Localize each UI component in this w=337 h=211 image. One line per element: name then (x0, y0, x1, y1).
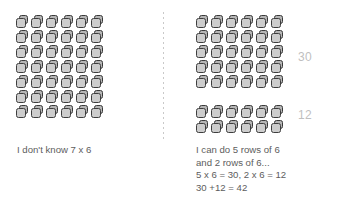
cube-icon (271, 15, 286, 30)
cube-icon (271, 30, 286, 45)
cube-icon (196, 105, 211, 120)
cube-icon (271, 45, 286, 60)
right-caption-line: 30 +12 = 42 (196, 182, 336, 195)
cube-icon (256, 105, 271, 120)
cube-icon (196, 45, 211, 60)
cube-icon (196, 75, 211, 90)
cube-icon (196, 15, 211, 30)
cube-icon (256, 60, 271, 75)
cube-icon (31, 30, 46, 45)
right-cube-grid-bottom (196, 105, 286, 135)
cube-icon (61, 105, 76, 120)
cube-icon (271, 60, 286, 75)
cube-icon (76, 90, 91, 105)
group-label-top: 30 (298, 50, 312, 64)
left-caption: I don't know 7 x 6 (17, 144, 162, 157)
right-caption-line: I can do 5 rows of 6 (196, 144, 336, 157)
cube-icon (46, 90, 61, 105)
cube-icon (16, 30, 31, 45)
cube-icon (91, 15, 106, 30)
cube-icon (211, 30, 226, 45)
cube-icon (226, 120, 241, 135)
cube-icon (61, 90, 76, 105)
cube-icon (31, 15, 46, 30)
cube-icon (196, 120, 211, 135)
cube-icon (61, 60, 76, 75)
cube-icon (31, 105, 46, 120)
right-caption-line: and 2 rows of 6... (196, 157, 336, 170)
panel-divider (163, 12, 164, 140)
left-panel: I don't know 7 x 6 (0, 0, 163, 211)
cube-icon (61, 75, 76, 90)
cube-icon (16, 75, 31, 90)
cube-icon (31, 75, 46, 90)
cube-icon (226, 105, 241, 120)
cube-icon (226, 45, 241, 60)
cube-icon (16, 60, 31, 75)
cube-icon (271, 120, 286, 135)
left-cube-grid (16, 15, 106, 120)
cube-icon (91, 30, 106, 45)
cube-icon (16, 15, 31, 30)
cube-icon (256, 75, 271, 90)
cube-icon (241, 15, 256, 30)
cube-icon (76, 75, 91, 90)
cube-icon (196, 30, 211, 45)
cube-icon (196, 60, 211, 75)
cube-icon (76, 45, 91, 60)
cube-icon (241, 75, 256, 90)
cube-icon (31, 60, 46, 75)
right-cube-grid-top (196, 15, 286, 90)
cube-icon (211, 45, 226, 60)
right-caption: I can do 5 rows of 6and 2 rows of 6...5 … (196, 144, 336, 194)
cube-icon (226, 75, 241, 90)
cube-icon (76, 60, 91, 75)
cube-icon (46, 105, 61, 120)
cube-icon (91, 45, 106, 60)
cube-icon (241, 105, 256, 120)
cube-icon (91, 75, 106, 90)
cube-icon (241, 120, 256, 135)
cube-icon (46, 75, 61, 90)
cube-icon (226, 15, 241, 30)
cube-icon (46, 30, 61, 45)
cube-icon (271, 75, 286, 90)
cube-icon (91, 90, 106, 105)
cube-icon (211, 105, 226, 120)
cube-icon (91, 105, 106, 120)
cube-icon (76, 105, 91, 120)
cube-icon (211, 60, 226, 75)
cube-icon (16, 45, 31, 60)
cube-icon (211, 75, 226, 90)
cube-icon (16, 90, 31, 105)
cube-icon (61, 30, 76, 45)
cube-icon (46, 15, 61, 30)
cube-icon (226, 30, 241, 45)
cube-icon (256, 120, 271, 135)
cube-icon (76, 30, 91, 45)
cube-icon (256, 15, 271, 30)
group-label-bottom: 12 (298, 108, 312, 122)
cube-icon (241, 45, 256, 60)
cube-icon (61, 45, 76, 60)
cube-icon (211, 120, 226, 135)
cube-icon (271, 105, 286, 120)
cube-icon (16, 105, 31, 120)
cube-icon (241, 60, 256, 75)
cube-icon (226, 60, 241, 75)
cube-icon (46, 45, 61, 60)
cube-icon (256, 45, 271, 60)
right-caption-line: 5 x 6 = 30, 2 x 6 = 12 (196, 169, 336, 182)
cube-icon (46, 60, 61, 75)
cube-icon (241, 30, 256, 45)
cube-icon (76, 15, 91, 30)
cube-icon (61, 15, 76, 30)
cube-icon (31, 90, 46, 105)
cube-icon (211, 15, 226, 30)
cube-icon (256, 30, 271, 45)
cube-icon (31, 45, 46, 60)
cube-icon (91, 60, 106, 75)
